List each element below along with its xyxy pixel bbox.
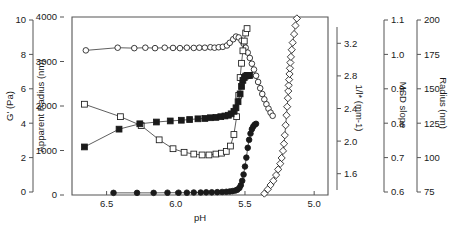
axis-title-apparent-radius: Apparent Radius (nm): [35, 60, 46, 153]
data-point: [247, 55, 253, 61]
data-point: [207, 115, 213, 121]
data-point: [152, 45, 158, 51]
data-point: [206, 152, 212, 158]
data-point: [199, 152, 205, 158]
data-point: [288, 46, 295, 53]
data-point: [165, 190, 171, 196]
data-point: [202, 116, 208, 122]
data-point: [287, 53, 294, 60]
data-point: [231, 132, 237, 138]
data-point: [240, 48, 246, 54]
tick-label-apparent-radius-4: 4000: [36, 11, 57, 22]
data-point: [279, 147, 286, 154]
tick-label-msd-slope-0: 0.6: [391, 186, 404, 197]
data-point: [170, 45, 176, 51]
data-point: [241, 38, 247, 44]
data-point: [244, 26, 250, 32]
tick-label-radius-5: 200: [424, 14, 440, 25]
data-point: [284, 103, 291, 110]
data-point: [228, 143, 234, 149]
data-point: [235, 99, 241, 105]
data-point: [284, 95, 291, 102]
data-point: [202, 45, 208, 51]
axis-title-msd-slope: MSD slope: [398, 82, 409, 128]
tick-label-inverse-lstar-4: 3.2: [344, 38, 357, 49]
data-point: [184, 190, 190, 196]
data-point: [191, 151, 197, 157]
tick-label-ph-2: 5.5: [238, 198, 251, 209]
axis-title-ph: pH: [194, 212, 206, 223]
data-point: [289, 39, 296, 46]
data-point: [203, 190, 209, 196]
data-point: [82, 144, 88, 150]
tick-label-inverse-lstar-1: 2.0: [344, 136, 357, 147]
data-point: [213, 151, 219, 157]
data-point: [249, 61, 255, 67]
data-point: [195, 116, 201, 122]
tick-label-msd-slope-4: 1.0: [391, 49, 404, 60]
data-point: [278, 154, 285, 161]
data-point: [233, 105, 239, 111]
tick-label-radius-1: 100: [424, 152, 440, 163]
data-point: [137, 121, 143, 127]
axis-title-g-prime: G' (Pa): [4, 91, 15, 121]
data-point: [239, 178, 245, 184]
data-point: [143, 45, 149, 51]
data-point: [187, 117, 193, 123]
data-point: [156, 137, 162, 143]
tick-label-inverse-lstar-3: 2.8: [344, 70, 357, 81]
data-point: [209, 190, 215, 196]
data-point: [241, 172, 247, 178]
data-point: [151, 190, 157, 196]
chart-canvas: 0246810G' (Pa)01000200030004000Apparent …: [0, 0, 452, 225]
tick-label-radius-0: 75: [424, 186, 435, 197]
data-point: [115, 45, 121, 51]
tick-label-inverse-lstar-0: 1.6: [344, 168, 357, 179]
tick-label-apparent-radius-0: 0: [52, 189, 57, 200]
data-point: [281, 132, 288, 139]
data-point: [244, 155, 250, 161]
tick-label-g-prime-4: 8: [21, 49, 26, 60]
data-point: [181, 149, 187, 155]
data-point: [184, 45, 190, 51]
data-point: [270, 113, 276, 119]
data-point: [245, 145, 251, 151]
data-point: [283, 112, 290, 119]
data-point: [162, 45, 168, 51]
data-point: [237, 91, 243, 97]
data-point: [247, 72, 253, 78]
data-point: [116, 126, 122, 132]
data-point: [253, 73, 259, 79]
data-point: [176, 190, 182, 196]
data-point: [280, 140, 287, 147]
axis-title-inverse-lstar: 1/l* (mm-1): [354, 85, 365, 132]
tick-label-ph-1: 6.0: [169, 198, 182, 209]
axis-radius: 75100125150175200: [417, 14, 440, 197]
axis-title-radius: Radius (nm): [438, 77, 449, 129]
data-point: [154, 119, 160, 125]
data-point: [167, 118, 173, 124]
axis-g-prime: 0246810: [15, 14, 33, 197]
data-point: [131, 45, 137, 51]
tick-label-g-prime-2: 4: [21, 118, 26, 129]
data-point: [251, 67, 257, 73]
series-2: [82, 72, 253, 149]
data-point: [111, 190, 117, 196]
tick-label-g-prime-5: 10: [15, 14, 26, 25]
tick-label-g-prime-3: 6: [21, 83, 26, 94]
data-point: [293, 15, 300, 22]
data-point: [191, 190, 197, 196]
data-point: [191, 45, 197, 51]
tick-label-radius-2: 125: [424, 118, 440, 129]
tick-label-radius-4: 175: [424, 49, 440, 60]
data-point: [177, 45, 183, 51]
data-point: [170, 146, 176, 152]
data-point: [259, 91, 265, 97]
tick-label-g-prime-1: 2: [21, 152, 26, 163]
data-point: [239, 60, 245, 66]
data-point: [198, 190, 204, 196]
data-point: [83, 48, 89, 54]
tick-label-radius-3: 150: [424, 83, 440, 94]
data-point: [118, 114, 124, 120]
tick-label-ph-3: 5.0: [308, 198, 321, 209]
